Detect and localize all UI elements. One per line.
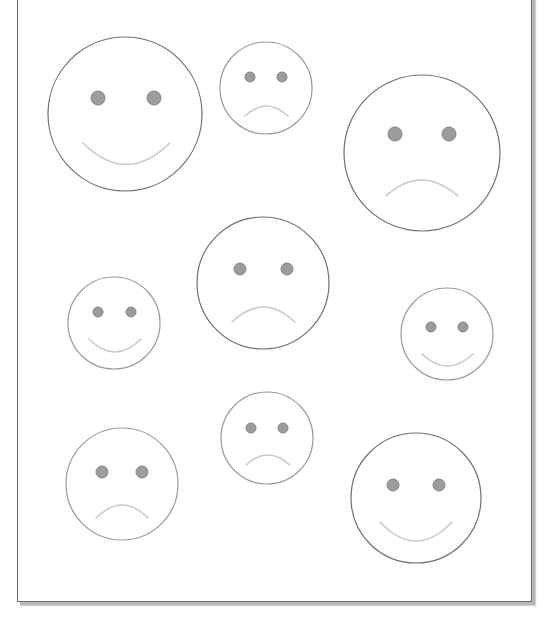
sad-face-icon [66,428,178,540]
right-eye [147,91,161,105]
smile-mouth [89,339,141,352]
left-eye [234,263,246,275]
left-eye [388,127,402,141]
left-eye [93,307,103,317]
sad-face-icon [197,217,329,349]
frown-mouth [245,106,288,116]
face-outline [48,37,202,191]
face-outline [220,42,312,134]
happy-face-icon [68,277,160,369]
right-eye [281,263,293,275]
frown-mouth [386,180,458,196]
left-eye [245,72,255,82]
frown-mouth [96,505,148,518]
right-eye [136,466,148,478]
face-outline [351,433,481,563]
sad-face-icon [220,42,312,134]
happy-face-icon [401,288,493,380]
right-eye [277,72,287,82]
left-eye [91,91,105,105]
left-eye [96,466,108,478]
right-eye [433,479,445,491]
right-eye [278,423,288,433]
sad-face-icon [221,392,313,484]
left-eye [246,423,256,433]
right-eye [458,322,468,332]
face-outline [197,217,329,349]
happy-face-icon [351,433,481,563]
face-outline [66,428,178,540]
smile-mouth [380,522,452,541]
left-eye [426,322,436,332]
face-outline [344,75,500,231]
frown-mouth [232,307,295,322]
left-eye [387,479,399,491]
face-outline [221,392,313,484]
sad-face-icon [344,75,500,231]
faces-canvas [0,0,549,618]
face-outline [68,277,160,369]
happy-face-icon [48,37,202,191]
right-eye [126,307,136,317]
frown-mouth [246,455,290,465]
smile-mouth [422,354,473,366]
right-eye [442,127,456,141]
smile-mouth [83,143,170,165]
